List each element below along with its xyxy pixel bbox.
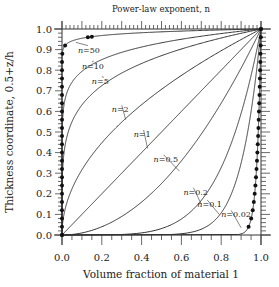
- x-tick-label: 0.6: [173, 252, 189, 263]
- marker-dot: [60, 93, 64, 97]
- marker-dot: [255, 151, 259, 155]
- marker-dot: [252, 200, 256, 204]
- marker-dot: [60, 208, 64, 212]
- curve-label: n=50: [78, 46, 100, 55]
- x-tick-label: 0.2: [94, 252, 110, 263]
- curve-label: n=5: [92, 77, 109, 86]
- y-tick-label: 0.6: [36, 106, 52, 117]
- x-tick-label: 0.4: [134, 252, 150, 263]
- marker-dot: [60, 134, 64, 138]
- marker-dot: [60, 109, 64, 113]
- marker-dot: [251, 208, 255, 212]
- marker-dot: [60, 101, 64, 105]
- marker-dot: [60, 151, 64, 155]
- curve-label: n=0.02: [221, 210, 251, 219]
- curve-label: n=10: [82, 62, 104, 71]
- marker-dot: [259, 35, 263, 39]
- marker-dot: [60, 142, 64, 146]
- marker-dot: [257, 109, 261, 113]
- curve-label: n=0.2: [183, 188, 208, 197]
- curve-labels: n=50n=10n=5n=2n=1n=0.5n=0.2n=0.1n=0.02: [76, 42, 251, 227]
- x-tick-label: 1.0: [253, 252, 269, 263]
- chart-title: Power-law exponent, n: [112, 4, 211, 14]
- marker-dot: [60, 68, 64, 72]
- marker-dot: [60, 76, 64, 80]
- curve-label: n=1: [134, 130, 151, 139]
- y-axis-title: Thickness coordinate, 0.5+z/h: [3, 51, 15, 213]
- curve-label: n=0.5: [154, 155, 179, 164]
- y-tick-label: 0.2: [36, 188, 52, 199]
- marker-dot: [258, 68, 262, 72]
- marker-dot: [90, 35, 94, 39]
- marker-dot: [258, 76, 262, 80]
- y-tick-label: 0.5: [36, 127, 52, 138]
- x-axis-title: Volume fraction of material 1: [82, 268, 239, 280]
- marker-dot: [60, 60, 64, 64]
- marker-dot: [256, 126, 260, 130]
- marker-dot: [259, 43, 263, 47]
- marker-dot: [255, 167, 259, 171]
- chart-canvas: n=50n=10n=5n=2n=1n=0.5n=0.2n=0.1n=0.02 0…: [0, 0, 279, 287]
- y-tick-label: 1.0: [36, 24, 52, 35]
- marker-dot: [60, 167, 64, 171]
- y-tick-label: 0.7: [36, 85, 52, 96]
- marker-dot: [253, 184, 257, 188]
- curve-label: n=0.1: [197, 200, 222, 209]
- marker-dot: [258, 85, 262, 89]
- marker-dot: [254, 175, 258, 179]
- marker-dot: [86, 35, 90, 39]
- marker-dot: [257, 118, 261, 122]
- y-tick-label: 0.0: [36, 230, 52, 241]
- marker-dot: [60, 126, 64, 130]
- curves: [62, 29, 261, 235]
- x-tick-label: 0.0: [54, 252, 70, 263]
- curve-n=1: [62, 29, 261, 235]
- marker-dot: [60, 184, 64, 188]
- marker-dot: [60, 118, 64, 122]
- marker-dot: [60, 85, 64, 89]
- marker-dot: [60, 175, 64, 179]
- y-tick-label: 0.9: [36, 44, 52, 55]
- marker-dot: [60, 225, 64, 229]
- marker-dot: [247, 225, 251, 229]
- marker-dot: [256, 142, 260, 146]
- marker-dot: [63, 43, 67, 47]
- marker-dot: [60, 233, 64, 237]
- y-tick-label: 0.3: [36, 168, 52, 179]
- marker-dot: [60, 200, 64, 204]
- y-tick-label: 0.4: [36, 147, 52, 158]
- marker-dot: [256, 134, 260, 138]
- curve-label: n=2: [112, 105, 129, 114]
- x-tick-label: 0.8: [213, 252, 229, 263]
- marker-dot: [259, 27, 263, 31]
- y-tick-label: 0.8: [36, 65, 52, 76]
- marker-dot: [255, 159, 259, 163]
- marker-dot: [60, 52, 64, 56]
- marker-dot: [257, 101, 261, 105]
- marker-dot: [253, 192, 257, 196]
- marker-dot: [258, 60, 262, 64]
- marker-dot: [60, 192, 64, 196]
- marker-dot: [60, 217, 64, 221]
- marker-dot: [258, 52, 262, 56]
- marker-dot: [257, 93, 261, 97]
- y-tick-label: 0.1: [36, 209, 52, 220]
- marker-dot: [60, 159, 64, 163]
